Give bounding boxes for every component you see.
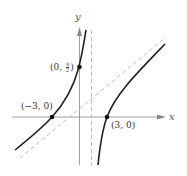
point-label-3-0: (3, 0)	[111, 121, 135, 130]
left-branch-curve	[15, 30, 86, 150]
slant-asymptote	[20, 37, 166, 158]
point-neg3-0	[50, 115, 55, 120]
fraction-denominator: 2	[66, 68, 69, 73]
point-3-0	[105, 115, 110, 120]
graph-canvas	[0, 0, 187, 176]
point-label-suffix: )	[70, 62, 74, 72]
point-label-prefix: (0,	[50, 62, 65, 72]
right-branch-curve	[98, 44, 165, 165]
y-axis-arrow-icon	[77, 27, 82, 36]
point-label-neg3-0: (−3, 0)	[21, 102, 53, 111]
point-label-0-9-2: (0, 92)	[50, 62, 74, 73]
fraction-9-2: 92	[66, 62, 69, 73]
x-axis-label: x	[169, 112, 175, 122]
rational-function-graph: y x (−3, 0) (0, 92) (3, 0)	[0, 0, 187, 176]
point-0-9-2	[77, 65, 82, 70]
x-axis-arrow-icon	[157, 115, 166, 120]
y-axis-label: y	[75, 12, 81, 22]
